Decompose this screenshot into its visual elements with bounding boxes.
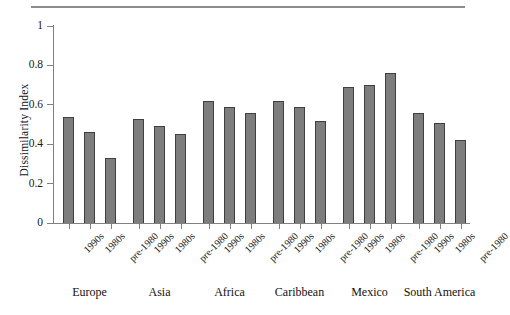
x-tick-mark — [370, 224, 371, 229]
bar — [133, 119, 144, 223]
y-tick-mark — [47, 223, 54, 224]
bar — [84, 132, 95, 223]
x-period-label: 1980s — [313, 231, 337, 255]
x-tick-mark — [90, 224, 91, 229]
x-tick-mark — [300, 224, 301, 229]
x-tick-mark — [69, 224, 70, 229]
bar — [273, 101, 284, 223]
y-tick-label: 0.2 — [3, 178, 43, 190]
x-period-label: 1980s — [453, 231, 477, 255]
x-tick-mark — [181, 224, 182, 229]
y-tick-label: 0 — [3, 217, 43, 229]
x-period-label: pre-1980 — [477, 231, 510, 264]
y-tick-label: 0.4 — [3, 138, 43, 150]
y-tick-mark — [47, 183, 54, 184]
x-tick-mark — [349, 224, 350, 229]
x-tick-mark — [251, 224, 252, 229]
bar — [364, 85, 375, 223]
x-tick-mark — [440, 224, 441, 229]
x-tick-mark — [230, 224, 231, 229]
bar — [385, 73, 396, 223]
bar — [315, 121, 326, 223]
x-period-label: 1980s — [103, 231, 127, 255]
y-tick-mark — [47, 144, 54, 145]
y-tick-mark — [47, 104, 54, 105]
x-tick-mark — [461, 224, 462, 229]
x-period-label: 1980s — [243, 231, 267, 255]
y-axis-line — [53, 25, 54, 224]
bar — [343, 87, 354, 223]
bar — [455, 140, 466, 223]
x-tick-mark — [139, 224, 140, 229]
x-tick-mark — [279, 224, 280, 229]
x-period-label: 1980s — [383, 231, 407, 255]
bar — [105, 158, 116, 223]
bar — [245, 113, 256, 223]
bar — [63, 117, 74, 223]
y-tick-mark — [47, 26, 54, 27]
x-tick-mark — [111, 224, 112, 229]
x-tick-mark — [209, 224, 210, 229]
x-tick-mark — [321, 224, 322, 229]
bar — [413, 113, 424, 223]
y-tick-label: 1 — [3, 20, 43, 32]
x-period-label: 1990s — [82, 231, 106, 255]
x-period-label: 1980s — [173, 231, 197, 255]
x-axis-line — [53, 223, 470, 224]
bar — [224, 107, 235, 223]
bar — [175, 134, 186, 223]
y-tick-label: 0.8 — [3, 59, 43, 71]
bar — [203, 101, 214, 223]
bar — [154, 126, 165, 223]
x-tick-mark — [419, 224, 420, 229]
x-tick-mark — [160, 224, 161, 229]
bar — [294, 107, 305, 223]
x-tick-mark — [391, 224, 392, 229]
x-group-label: South America — [395, 286, 485, 299]
bar — [434, 123, 445, 223]
y-tick-label: 0.6 — [3, 99, 43, 111]
y-tick-mark — [47, 65, 54, 66]
